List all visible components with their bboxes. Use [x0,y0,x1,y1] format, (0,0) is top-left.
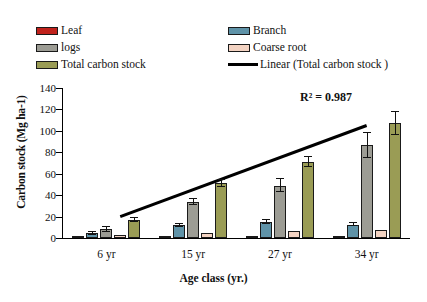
bar-logs[interactable] [274,186,286,239]
plot-region: Carbon stock (Mg ha-1) 14012010080604020… [0,78,427,302]
legend-item-label: Linear (Total carbon stock ) [260,59,388,71]
error-bar-cap [217,186,225,187]
y-tick-label: 100 [22,125,56,137]
error-bar-cap [304,166,312,167]
error-bar-cap [349,225,357,226]
bar-coarse-root[interactable] [114,235,126,238]
legend-color-swatch [36,27,58,35]
legend-color-swatch [36,44,58,52]
bar-branch[interactable] [347,225,359,238]
x-tick-label: 27 yr [237,248,324,260]
legend-item-branch[interactable]: Branch [228,25,286,37]
legend-item-leaf[interactable]: Leaf [36,25,82,37]
error-bar [367,133,368,158]
legend-item-label: Total carbon stock [61,59,146,71]
bar-leaf[interactable] [159,236,171,238]
error-bar-cap [88,234,96,235]
bar-total-carbon-stock[interactable] [389,123,401,238]
y-tick-label: 0 [22,232,56,244]
bar-total-carbon-stock[interactable] [215,183,227,238]
error-bar-cap [262,219,270,220]
y-tick-mark [56,131,62,132]
error-bar-cap [363,132,371,133]
error-bar-cap [276,191,284,192]
bar-group [150,88,237,238]
y-tick-label: 140 [22,82,56,94]
chart-figure: LeafBranchlogsCoarse rootTotal carbon st… [0,0,427,302]
y-tick-mark [56,88,62,89]
error-bar-cap [391,111,399,112]
y-tick-mark [56,217,62,218]
y-tick-label: 120 [22,103,56,115]
bar-coarse-root[interactable] [375,230,387,238]
legend-item-logs[interactable]: logs [36,42,80,54]
legend-color-swatch [36,61,58,69]
legend-item-linear-total-carbon-stock[interactable]: Linear (Total carbon stock ) [228,59,388,71]
error-bar-cap [363,157,371,158]
bar-branch[interactable] [173,225,185,238]
legend-item-label: Coarse root [253,42,306,54]
bar-logs[interactable] [361,145,373,238]
error-bar-cap [391,134,399,135]
error-bar [395,112,396,136]
y-tick-mark [56,174,62,175]
x-tick-label: 6 yr [63,248,150,260]
error-bar-cap [304,156,312,157]
error-bar-cap [189,198,197,199]
y-tick-label: 20 [22,211,56,223]
bar-group [237,88,324,238]
bar-total-carbon-stock[interactable] [128,220,140,238]
bar-group [323,88,410,238]
legend-item-total-carbon-stock[interactable]: Total carbon stock [36,59,146,71]
bar-coarse-root[interactable] [288,231,300,238]
y-axis-tick-labels: 140120100806040200 [22,78,56,238]
error-bar-cap [349,222,357,223]
legend-item-label: Branch [253,25,286,37]
error-bar-cap [276,178,284,179]
legend-line-marker [228,63,258,66]
error-bar-cap [217,179,225,180]
error-bar-cap [102,226,110,227]
x-axis-title: Age class (yr.) [0,272,427,284]
error-bar-cap [130,221,138,222]
y-tick-mark [56,152,62,153]
error-bar-cap [189,204,197,205]
legend-item-coarse-root[interactable]: Coarse root [228,42,306,54]
bar-leaf[interactable] [333,236,345,238]
y-tick-label: 80 [22,146,56,158]
y-tick-label: 60 [22,168,56,180]
y-tick-mark [56,109,62,110]
bar-coarse-root[interactable] [201,233,213,238]
legend-color-swatch [228,27,250,35]
chart-legend: LeafBranchlogsCoarse rootTotal carbon st… [0,0,427,78]
bar-group [63,88,150,238]
error-bar-cap [175,226,183,227]
legend-item-label: logs [61,42,80,54]
error-bar-cap [130,217,138,218]
y-tick-mark [56,195,62,196]
bar-leaf[interactable] [246,236,258,238]
error-bar-cap [88,231,96,232]
bar-branch[interactable] [260,222,272,238]
error-bar-cap [102,231,110,232]
error-bar-cap [175,223,183,224]
legend-item-label: Leaf [61,25,82,37]
x-tick-label: 34 yr [323,248,410,260]
r-squared-annotation: R² = 0.987 [300,90,352,105]
bar-total-carbon-stock[interactable] [302,162,314,238]
y-tick-label: 40 [22,189,56,201]
x-axis-line [62,238,410,239]
legend-color-swatch [228,44,250,52]
y-tick-mark [56,238,62,239]
error-bar-cap [262,223,270,224]
x-tick-label: 15 yr [150,248,237,260]
bar-logs[interactable] [187,202,199,238]
bar-leaf[interactable] [72,236,84,238]
plot-area [63,88,410,238]
